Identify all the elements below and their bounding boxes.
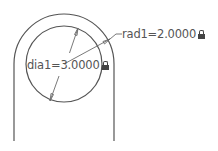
radius-dimension-label[interactable]: rad1=2.0000 <box>122 28 205 40</box>
radius-dimension-text: rad1=2.0000 <box>122 28 196 40</box>
lock-icon <box>102 61 109 70</box>
lock-icon <box>198 30 205 39</box>
diameter-dimension-label[interactable]: dia1=3.0000 <box>27 59 109 71</box>
cad-drawing-canvas[interactable]: rad1=2.0000 dia1=3.0000 <box>0 0 218 151</box>
sketch-geometry <box>0 0 218 151</box>
diameter-dimension-text: dia1=3.0000 <box>27 59 100 71</box>
